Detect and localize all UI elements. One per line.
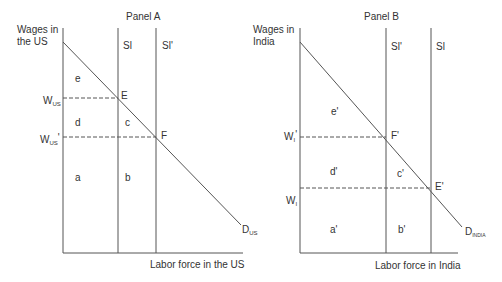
panel-b [300, 28, 462, 253]
panel-a-area-d: d [75, 117, 81, 128]
panel-b-wage-label-wi-prime: WI' [284, 129, 297, 143]
panel-b-labels: Panel B Wages in India Sl' Sl F' E' WI' … [253, 11, 486, 271]
panel-b-supply-label-sl: Sl [436, 41, 445, 52]
panel-b-area-a-prime: a' [330, 224, 338, 235]
panel-b-area-d-prime: d' [330, 166, 338, 177]
panel-b-supply-label-sl-prime: Sl' [391, 41, 402, 52]
panel-b-title: Panel B [364, 11, 399, 22]
panel-b-demand-label: DINDIA [465, 226, 486, 238]
panel-a-supply-label-sl-prime: Sl' [162, 40, 173, 51]
panel-b-area-c-prime: c' [397, 168, 404, 179]
panel-b-wage-label-wi: WI [286, 195, 297, 207]
panel-a-point-f: F [161, 130, 167, 141]
panel-a-wage-label-wus-prime: WUS' [40, 132, 60, 146]
panel-a-xlabel: Labor force in the US [150, 259, 245, 270]
panel-a-wage-label-wus: WUS [43, 95, 61, 107]
panel-a-area-e: e [75, 73, 81, 84]
panel-a-labels: Panel A Wages in the US Sl Sl' E F WUS W… [17, 11, 258, 270]
panel-a [63, 28, 243, 253]
labor-migration-diagram: Panel A Wages in the US Sl Sl' E F WUS W… [0, 0, 502, 282]
panel-a-point-e: E [121, 90, 128, 101]
panel-b-xlabel: Labor force in India [375, 260, 461, 271]
panel-a-ylabel-1: Wages in [17, 24, 58, 35]
panel-a-area-b: b [125, 172, 131, 183]
panel-a-supply-label-sl: Sl [123, 40, 132, 51]
panel-a-area-a: a [75, 172, 81, 183]
panel-b-ylabel-2: India [253, 36, 275, 47]
panel-a-ylabel-2: the US [17, 36, 48, 47]
panel-b-demand-curve [300, 42, 462, 227]
panel-a-demand-label: DUS [242, 224, 258, 236]
panel-a-demand-curve [63, 42, 241, 225]
panel-b-area-e-prime: e' [331, 106, 339, 117]
panel-b-area-b-prime: b' [398, 224, 406, 235]
panel-b-ylabel-1: Wages in [253, 24, 294, 35]
panel-a-area-c: c [125, 117, 130, 128]
panel-b-point-f-prime: F' [391, 130, 399, 141]
panel-a-title: Panel A [126, 11, 161, 22]
panel-b-point-e-prime: E' [435, 181, 444, 192]
